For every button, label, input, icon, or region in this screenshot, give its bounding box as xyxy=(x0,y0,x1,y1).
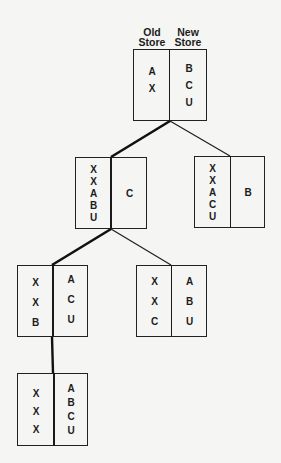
item: X xyxy=(151,276,158,287)
item: X xyxy=(90,176,97,187)
new-store-header: New Store xyxy=(168,27,208,47)
item: B xyxy=(32,317,39,328)
item: X xyxy=(209,163,216,174)
node-level3-left: X X B A C U xyxy=(17,265,88,337)
item: X xyxy=(90,164,97,175)
item: X xyxy=(149,83,156,94)
item: C xyxy=(67,294,74,305)
node-level2-right: X X A C U B xyxy=(194,156,265,228)
new-store-column: B C U xyxy=(171,50,207,120)
item: C xyxy=(209,199,216,210)
item: X xyxy=(32,297,39,308)
edge-root-to-level2-right xyxy=(170,121,230,156)
old-store-column: X X B xyxy=(18,266,53,336)
item: C xyxy=(126,188,133,199)
new-store-column: B xyxy=(232,157,264,227)
old-store-column: X X C xyxy=(137,266,172,336)
item: U xyxy=(186,316,193,327)
new-store-column: C xyxy=(113,158,146,228)
item: U xyxy=(67,314,74,325)
edge-root-to-level2-left xyxy=(111,121,170,157)
new-store-header-line2: Store xyxy=(168,37,208,47)
item: X xyxy=(151,296,158,307)
item: U xyxy=(90,212,97,223)
old-store-column: A X xyxy=(134,50,170,120)
item: X xyxy=(32,277,39,288)
item: A xyxy=(90,188,97,199)
node-root: A X B C U xyxy=(133,49,207,121)
node-level3-right: X X C A B U xyxy=(136,265,207,337)
item: U xyxy=(67,425,74,436)
item: B xyxy=(244,187,251,198)
item: A xyxy=(186,276,193,287)
node-level4: X X X A B C U xyxy=(17,373,88,446)
item: A xyxy=(67,274,74,285)
old-store-column: X X A B U xyxy=(76,158,111,228)
edge-level2-left-to-level3-right xyxy=(111,229,171,265)
edge-level3-left-to-level4 xyxy=(52,337,53,373)
item: U xyxy=(209,211,216,222)
item: U xyxy=(185,97,192,108)
item: X xyxy=(33,424,40,435)
item: A xyxy=(209,187,216,198)
new-store-column: A B U xyxy=(173,266,206,336)
new-store-column: A C U xyxy=(55,266,87,336)
item: X xyxy=(33,388,40,399)
old-store-column: X X A C U xyxy=(195,157,230,227)
item: X xyxy=(209,175,216,186)
item: B xyxy=(185,63,192,74)
node-level2-left: X X A B U C xyxy=(75,157,147,229)
item: B xyxy=(67,397,74,408)
old-store-header-line2: Store xyxy=(132,37,172,47)
item: C xyxy=(185,80,192,91)
old-store-header: Old Store xyxy=(132,27,172,47)
item: X xyxy=(33,406,40,417)
item: C xyxy=(151,316,158,327)
old-store-column: X X X xyxy=(18,374,54,445)
item: A xyxy=(148,66,155,77)
new-store-column: A B C U xyxy=(55,374,87,445)
item: A xyxy=(67,383,74,394)
item: B xyxy=(186,296,193,307)
item: C xyxy=(67,411,74,422)
edge-level2-left-to-level3-left xyxy=(52,229,111,265)
item: B xyxy=(90,200,97,211)
